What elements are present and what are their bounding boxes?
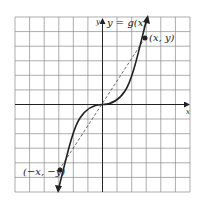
odd-function-graph: y y = g(x) x (x, y) (−x, −y) [0,0,200,203]
point-label-negative: (−x, −y) [23,166,65,177]
point-label-positive: (x, y) [149,32,175,43]
y-axis-label: y [95,18,101,26]
point-positive [143,36,148,41]
x-axis-label: x [186,108,190,116]
function-label: y = g(x) [106,17,147,28]
